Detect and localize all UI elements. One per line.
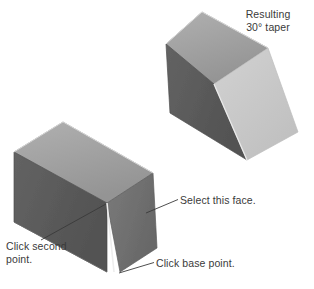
label-resulting-line2: 30° taper	[246, 21, 290, 33]
label-resulting-line1: Resulting	[246, 8, 291, 20]
label-select-this-face: Select this face.	[180, 194, 256, 207]
label-click-base-point: Click base point.	[156, 257, 235, 270]
taper-illustration-figure: Resulting30° taper Select this face. Cli…	[0, 0, 314, 289]
label-resulting-taper: Resulting30° taper	[228, 8, 308, 33]
resulting-taper-solid	[166, 12, 298, 160]
label-click-second-line2: point.	[6, 253, 32, 265]
label-click-second-line1: Click second	[6, 240, 67, 252]
label-click-second-point: Click secondpoint.	[6, 240, 67, 265]
